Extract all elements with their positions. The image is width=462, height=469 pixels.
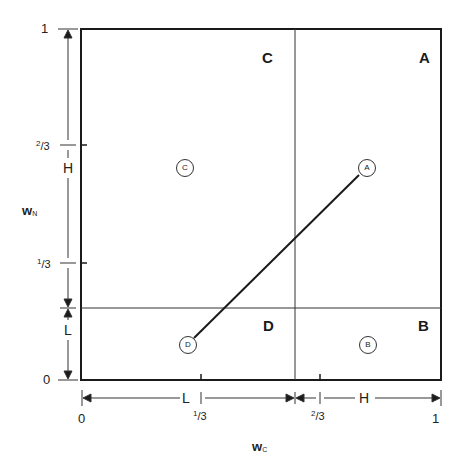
- diagram-canvas: [0, 0, 462, 469]
- x-axis-label: wC: [252, 440, 267, 453]
- x-dim-low: L: [180, 391, 192, 405]
- quadrant-label-d: D: [263, 318, 274, 333]
- point-c: C: [176, 159, 194, 177]
- x-tick-label-2-3: 2/3: [311, 410, 325, 422]
- point-b: B: [359, 336, 377, 354]
- y-dim-low: L: [62, 323, 74, 337]
- point-d: D: [179, 336, 197, 354]
- point-a: A: [358, 159, 376, 177]
- quadrant-label-a: A: [419, 50, 430, 65]
- y-tick-label-1: 1: [41, 22, 48, 35]
- y-dim-high: H: [61, 161, 75, 175]
- d-to-a-line: [194, 175, 359, 338]
- quadrant-label-b: B: [418, 318, 429, 333]
- x-tick-label-1: 1: [432, 412, 439, 425]
- y-axis-label: wN: [22, 204, 37, 217]
- x-tick-label-0: 0: [78, 412, 85, 425]
- x-tick-label-1-3: 1/3: [193, 410, 207, 422]
- x-dim-high: H: [357, 391, 371, 405]
- y-tick-label-1-3: 1/3: [37, 258, 51, 270]
- plot-frame: [81, 29, 441, 380]
- y-tick-label-0: 0: [43, 373, 50, 386]
- quadrant-label-c: C: [262, 50, 273, 65]
- x-dimension-lines: [82, 390, 441, 406]
- y-tick-label-2-3: 2/3: [36, 140, 50, 152]
